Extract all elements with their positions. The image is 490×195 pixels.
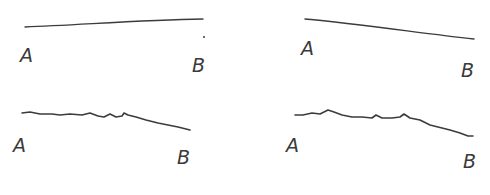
stray-dot <box>203 36 205 38</box>
label-a: A <box>18 44 33 66</box>
panel-top-left: A B <box>18 19 205 76</box>
label-a: A <box>299 37 314 59</box>
sketch-svg: A B A B A B A B <box>0 0 490 195</box>
panel-bottom-right: A B <box>284 110 476 172</box>
path-a-to-b <box>295 110 473 136</box>
path-a-to-b <box>305 19 474 39</box>
label-b: B <box>463 150 476 172</box>
panel-bottom-left: A B <box>11 112 190 168</box>
panel-top-right: A B <box>299 19 474 81</box>
label-b: B <box>177 146 190 168</box>
path-a-to-b <box>25 19 203 27</box>
path-a-to-b <box>22 112 190 130</box>
sketch-canvas: A B A B A B A B <box>0 0 490 195</box>
label-a: A <box>11 134 26 156</box>
label-b: B <box>192 54 205 76</box>
label-a: A <box>284 134 299 156</box>
label-b: B <box>461 59 474 81</box>
